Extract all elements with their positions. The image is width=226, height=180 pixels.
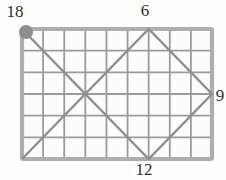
billiard-grid-figure: 18 6 9 12 (0, 0, 226, 180)
label-bottom-12: 12 (136, 161, 153, 178)
label-start-18: 18 (7, 3, 24, 20)
grid-rectangle-canvas (0, 0, 226, 180)
label-right-9: 9 (216, 87, 225, 104)
label-top-6: 6 (141, 2, 150, 19)
